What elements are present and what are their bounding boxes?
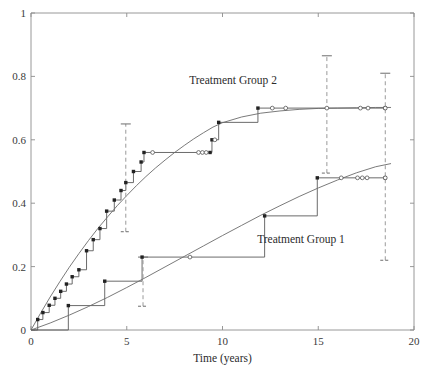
series-annotation-label: Treatment Group 1 (257, 233, 345, 246)
y-tick-label: 1 (21, 7, 27, 19)
censoring-mark (200, 151, 204, 155)
survival-curve-figure: 0510152000.20.40.60.81Time (years) Treat… (0, 0, 437, 370)
y-tick-label: 0 (21, 324, 27, 336)
y-tick-label: 0.6 (12, 134, 26, 146)
event-marker (41, 311, 44, 314)
censoring-mark (270, 106, 274, 110)
x-tick-label: 15 (313, 335, 325, 347)
plot-frame (31, 13, 414, 330)
series-annotation-label: Treatment Group 2 (189, 74, 277, 87)
censoring-mark (365, 176, 369, 180)
event-marker (36, 318, 39, 321)
x-axis-title: Time (years) (193, 352, 252, 365)
event-marker (70, 275, 73, 278)
plot-canvas: 0510152000.20.40.60.81Time (years) Treat… (0, 0, 437, 370)
event-marker (53, 297, 56, 300)
markers-layer (36, 106, 387, 321)
event-marker (103, 279, 106, 282)
event-marker (316, 176, 319, 179)
censoring-mark (213, 138, 217, 142)
event-marker (98, 227, 101, 230)
event-marker (47, 304, 50, 307)
censoring-mark (325, 106, 329, 110)
event-marker (92, 238, 95, 241)
event-marker (85, 249, 88, 252)
y-tick-label: 0.2 (12, 261, 26, 273)
event-marker (132, 170, 135, 173)
event-marker (208, 151, 211, 154)
censoring-mark (284, 106, 288, 110)
x-tick-label: 0 (28, 335, 34, 347)
axes-layer: 0510152000.20.40.60.81Time (years) (12, 7, 420, 365)
censoring-mark (360, 176, 364, 180)
event-marker (139, 160, 142, 163)
censoring-mark (204, 151, 208, 155)
step-curve (31, 108, 385, 330)
censoring-mark (339, 176, 343, 180)
event-marker (113, 198, 116, 201)
event-marker (140, 255, 143, 258)
y-tick-label: 0.4 (12, 197, 26, 209)
censoring-mark (197, 151, 201, 155)
censoring-mark (356, 176, 360, 180)
event-marker (256, 106, 259, 109)
x-tick-label: 10 (217, 335, 229, 347)
model-fit-curve (31, 164, 391, 330)
y-tick-label: 0.8 (12, 70, 26, 82)
censoring-mark (383, 106, 387, 110)
event-marker (119, 189, 122, 192)
censoring-mark (151, 151, 155, 155)
labels-layer: Treatment Group 2Treatment Group 1 (189, 74, 345, 246)
censoring-mark (366, 106, 370, 110)
censoring-mark (383, 176, 387, 180)
censoring-mark (188, 255, 192, 259)
event-marker (105, 209, 108, 212)
step-curve (31, 178, 385, 330)
event-marker (217, 121, 220, 124)
event-marker (77, 268, 80, 271)
x-tick-label: 5 (124, 335, 130, 347)
event-marker (124, 181, 127, 184)
x-tick-label: 20 (409, 335, 421, 347)
event-marker (263, 214, 266, 217)
event-marker (59, 290, 62, 293)
censoring-mark (358, 106, 362, 110)
event-marker (67, 304, 70, 307)
event-marker (65, 282, 68, 285)
event-marker (142, 151, 145, 154)
